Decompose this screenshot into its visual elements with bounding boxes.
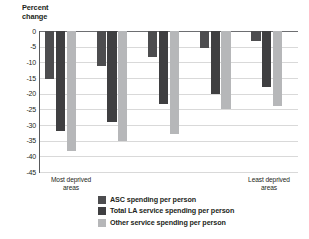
bar xyxy=(56,31,65,131)
bar xyxy=(262,31,271,87)
bar xyxy=(211,31,220,94)
y-tick-label: -35 xyxy=(26,137,36,144)
legend-label: ASC spending per person xyxy=(110,196,196,204)
x-axis-label-least-deprived: Least deprived areas xyxy=(236,176,302,192)
legend: ASC spending per personTotal LA service … xyxy=(98,194,298,229)
y-tick-label: -10 xyxy=(26,59,36,66)
chart-figure: Percent change 0-5-10-15-20-25-30-35-40-… xyxy=(0,0,309,239)
legend-item: Other service spending per person xyxy=(98,217,298,229)
bar-group xyxy=(92,31,144,172)
legend-item: Total LA service spending per person xyxy=(98,206,298,218)
y-axis-tick-labels: 0-5-10-15-20-25-30-35-40-45 xyxy=(0,31,36,172)
bar xyxy=(97,31,106,66)
bar-group xyxy=(40,31,92,172)
legend-label: Other service spending per person xyxy=(110,219,226,227)
bar xyxy=(67,31,76,151)
bar xyxy=(45,31,54,79)
bar-group xyxy=(143,31,195,172)
legend-swatch xyxy=(98,219,106,227)
bar xyxy=(273,31,282,106)
y-tick-label: -5 xyxy=(30,43,36,50)
y-tick-label: 0 xyxy=(32,28,36,35)
gridline--45 xyxy=(40,172,298,173)
legend-item: ASC spending per person xyxy=(98,194,298,206)
x-axis-label-most-deprived: Most deprived areas xyxy=(38,176,104,192)
bar xyxy=(148,31,157,57)
bar-group xyxy=(195,31,247,172)
y-tick-label: -25 xyxy=(26,106,36,113)
bar xyxy=(118,31,127,141)
y-tick-label: -40 xyxy=(26,153,36,160)
bar xyxy=(170,31,179,134)
bar xyxy=(107,31,116,122)
bar xyxy=(159,31,168,104)
bar xyxy=(251,31,260,41)
y-tick-label: -20 xyxy=(26,90,36,97)
legend-label: Total LA service spending per person xyxy=(110,207,234,215)
legend-swatch xyxy=(98,207,106,215)
plot-area xyxy=(40,31,298,172)
bar xyxy=(221,31,230,109)
y-tick-label: -15 xyxy=(26,75,36,82)
bar-group xyxy=(246,31,298,172)
y-axis-title: Percent change xyxy=(22,3,48,22)
bar xyxy=(200,31,209,48)
y-tick-label: -30 xyxy=(26,122,36,129)
y-tick-label: -45 xyxy=(26,169,36,176)
legend-swatch xyxy=(98,196,106,204)
